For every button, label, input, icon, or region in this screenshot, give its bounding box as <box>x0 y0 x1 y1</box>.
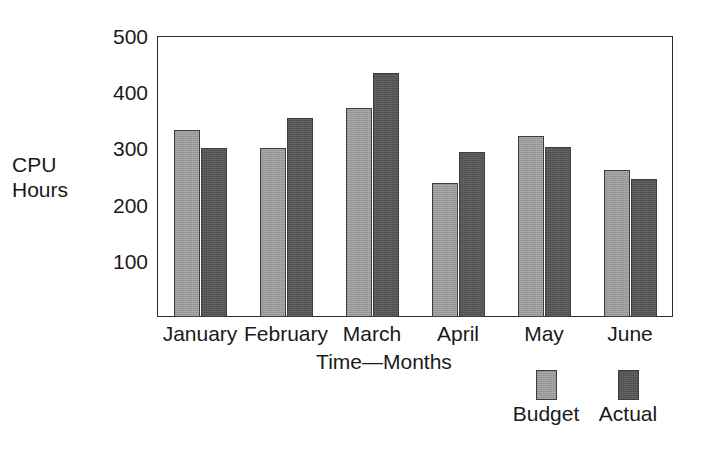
legend-label-actual: Actual <box>591 402 665 426</box>
y-axis-tick-400: 400 <box>96 82 148 103</box>
bar-february-actual <box>287 118 313 318</box>
y-axis-tick-100: 100 <box>96 251 148 272</box>
y-axis-tick-500: 500 <box>96 26 148 47</box>
legend-item-budget[interactable]: Budget <box>509 370 583 426</box>
bar-january-actual <box>201 148 227 317</box>
x-axis-tick-may: May <box>524 321 564 347</box>
legend-label-budget: Budget <box>509 402 583 426</box>
x-axis-tick-june: June <box>607 321 653 347</box>
legend-swatch-budget <box>536 370 557 400</box>
x-axis-tick-february: February <box>244 321 328 347</box>
legend-item-actual[interactable]: Actual <box>591 370 665 426</box>
bar-june-budget <box>604 170 630 317</box>
bars-layer <box>157 36 673 317</box>
y-axis-tick-labels: 100200300400500 <box>92 0 148 453</box>
x-axis-tick-labels: JanuaryFebruaryMarchAprilMayJune <box>157 321 673 351</box>
bar-may-actual <box>545 147 571 317</box>
x-axis-tick-march: March <box>343 321 401 347</box>
x-axis-tick-january: January <box>163 321 238 347</box>
y-axis-tick-300: 300 <box>96 138 148 159</box>
bar-may-budget <box>518 136 544 317</box>
bar-march-budget <box>346 108 372 317</box>
bar-june-actual <box>631 179 657 317</box>
y-axis-tick-200: 200 <box>96 195 148 216</box>
x-axis-tick-april: April <box>437 321 479 347</box>
y-axis-title-line2: Hours <box>12 178 68 201</box>
bar-april-budget <box>432 183 458 317</box>
bar-chart: CPUHours 100200300400500 JanuaryFebruary… <box>0 0 710 453</box>
legend: BudgetActual <box>509 370 669 440</box>
bar-april-actual <box>459 152 485 317</box>
legend-swatch-actual <box>618 370 639 400</box>
bar-march-actual <box>373 73 399 317</box>
y-axis-title-line1: CPU <box>12 153 56 176</box>
bar-february-budget <box>260 148 286 317</box>
bar-january-budget <box>174 130 200 317</box>
